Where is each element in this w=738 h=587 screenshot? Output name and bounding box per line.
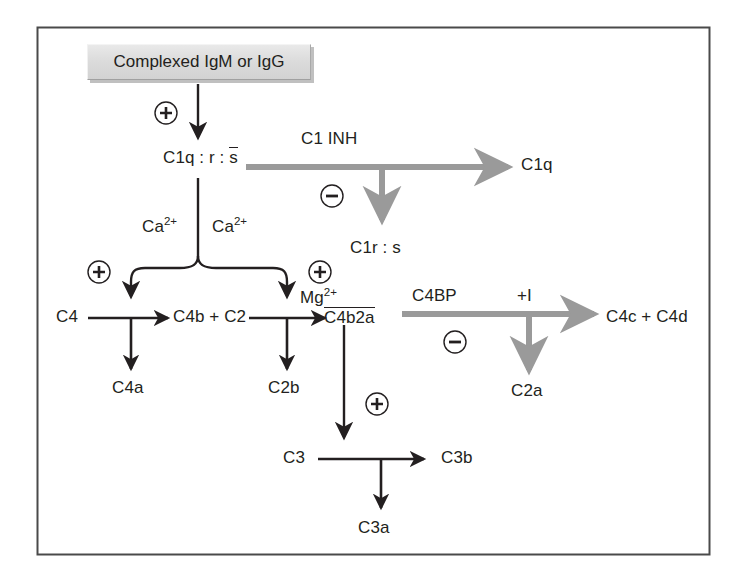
cascade-diagram-canvas — [0, 0, 738, 587]
node-c2b: C2b — [268, 378, 300, 398]
complexed-igm-igg-box[interactable]: Complexed IgM or IgG — [87, 44, 311, 80]
cofactor-mg-base: Mg — [300, 288, 324, 307]
inhibitor-factor-i: +I — [517, 286, 532, 306]
sign-plus-ca-right — [309, 261, 331, 283]
node-c4a: C4a — [112, 378, 144, 398]
node-c1qrs: C1q : r : s — [163, 147, 238, 168]
cofactor-ca-left-sup: 2+ — [164, 215, 177, 227]
node-c1qrs-overline-s: s — [229, 147, 238, 168]
node-c2a: C2a — [511, 381, 543, 401]
node-c4b2a: C4b2a — [324, 307, 375, 328]
complexed-igm-igg-label: Complexed IgM or IgG — [113, 52, 284, 72]
cofactor-ca-right: Ca2+ — [212, 215, 247, 237]
figure-frame — [38, 28, 710, 555]
cofactor-ca-left: Ca2+ — [142, 215, 177, 237]
node-c4c-plus-c4d: C4c + C4d — [606, 307, 688, 327]
node-c1rs: C1r : s — [350, 238, 401, 258]
node-c3b: C3b — [441, 448, 473, 468]
inhibitor-c4bp: C4BP — [412, 286, 457, 306]
node-c3: C3 — [283, 448, 305, 468]
sign-plus-complex-to-c1qrs — [155, 102, 177, 124]
sign-minus-c1inh — [321, 185, 343, 207]
sign-minus-c4bp — [444, 331, 466, 353]
complement-pathway-figure: Complexed IgM or IgG C1q : r : s C1q C1r… — [0, 0, 738, 587]
node-c4b2a-overline: C4b2a — [324, 307, 375, 328]
cofactor-ca-left-base: Ca — [142, 217, 164, 236]
node-c4: C4 — [56, 307, 78, 327]
sign-plus-ca-left — [88, 261, 110, 283]
node-c4b-plus-c2: C4b + C2 — [173, 307, 246, 327]
node-c3a: C3a — [358, 518, 390, 538]
cofactor-mg-sup: 2+ — [324, 286, 337, 298]
cofactor-ca-right-sup: 2+ — [234, 215, 247, 227]
sign-plus-c4b2a-to-c3 — [366, 393, 388, 415]
node-c1qrs-prefix: C1q : r : — [163, 148, 229, 167]
inhibitor-c1-inh: C1 INH — [301, 129, 357, 149]
cofactor-mg: Mg2+ — [300, 286, 337, 308]
cofactor-ca-right-base: Ca — [212, 217, 234, 236]
node-c1q: C1q — [521, 155, 553, 175]
